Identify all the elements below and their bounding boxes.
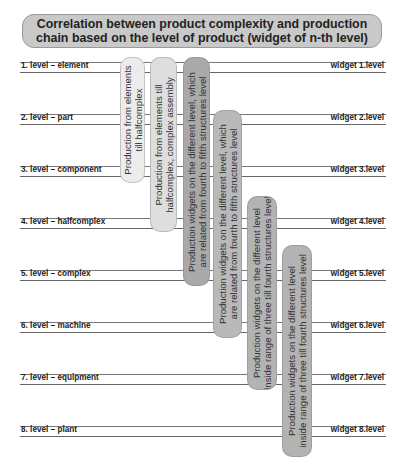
widget-label: widget 8.level <box>331 425 384 434</box>
widget-label: widget 5.level <box>331 269 384 278</box>
production-bar-3: Production widgets on the different leve… <box>183 57 210 286</box>
production-bar-4: Production widgets on the different leve… <box>213 110 242 338</box>
bar-text-line-1: Production widgets on the different leve… <box>186 72 197 272</box>
widget-label: widget 4.level <box>331 217 384 226</box>
bar-text: Production from elements till halfcomple… <box>153 77 175 212</box>
widget-label: widget 6.level <box>331 321 384 330</box>
level-label: 1. level – element <box>21 61 88 70</box>
row-line-bottom <box>20 332 386 333</box>
level-label: 7. level – equipment <box>21 373 99 382</box>
diagram-title: Correlation between product complexity a… <box>22 14 382 48</box>
title-line-1: Correlation between product complexity a… <box>37 17 367 31</box>
bar-text-line-2: till halfcomplex <box>133 65 144 174</box>
bar-text: Production widgets on the different leve… <box>186 72 208 272</box>
row-line-bottom <box>20 436 386 437</box>
level-label: 4. level – halfcomplex <box>21 217 105 226</box>
widget-label: widget 2.level <box>331 113 384 122</box>
row-line-bottom <box>20 384 386 385</box>
bar-text-line-1: Production from elements till <box>153 77 164 212</box>
bar-text-line-2: are related from fourth to fifth structu… <box>228 124 239 324</box>
bar-text-line-2: are related from fourth to fifth structu… <box>197 72 208 272</box>
bar-text-line-2: inside range of three till fourth struct… <box>297 254 308 448</box>
widget-label: widget 1.level <box>331 61 384 70</box>
bar-text-line-2: halfcomplex, complex assembly <box>164 77 175 212</box>
level-label: 8. level – plant <box>21 425 77 434</box>
bar-text: Production widgets on the different leve… <box>286 254 308 448</box>
title-line-2: chain based on the level of product (wid… <box>36 31 368 45</box>
level-label: 2. level – part <box>21 113 73 122</box>
level-label: 3. level – component <box>21 165 102 174</box>
level-row-8: 8. level – plant widget 8.level <box>20 426 386 436</box>
bar-text-line-1: Production widgets on the different leve… <box>217 124 228 324</box>
bar-text: Production widgets on the different leve… <box>217 124 239 324</box>
production-bar-1: Production from elements till halfcomple… <box>120 57 145 183</box>
level-label: 5. level – complex <box>21 269 91 278</box>
bar-text: Production from elements till halfcomple… <box>122 65 144 174</box>
level-label: 6. level – machine <box>21 321 91 330</box>
widget-label: widget 7.level <box>331 373 384 382</box>
production-bar-5: Production widgets on the different leve… <box>247 196 277 390</box>
bar-text-line-1: Production widgets on the different leve… <box>251 196 262 390</box>
production-bar-6: Production widgets on the different leve… <box>282 245 312 457</box>
bar-text-line-2: inside range of three till fourth struct… <box>262 196 273 390</box>
bar-text-line-1: Production widgets on the different leve… <box>286 254 297 448</box>
widget-label: widget 3.level <box>331 165 384 174</box>
bar-text-line-1: Production from elements <box>122 65 133 174</box>
level-row-6: 6. level – machine widget 6.level <box>20 322 386 332</box>
level-row-7: 7. level – equipment widget 7.level <box>20 374 386 384</box>
bar-text: Production widgets on the different leve… <box>251 196 273 390</box>
production-bar-2: Production from elements till halfcomple… <box>150 57 177 232</box>
